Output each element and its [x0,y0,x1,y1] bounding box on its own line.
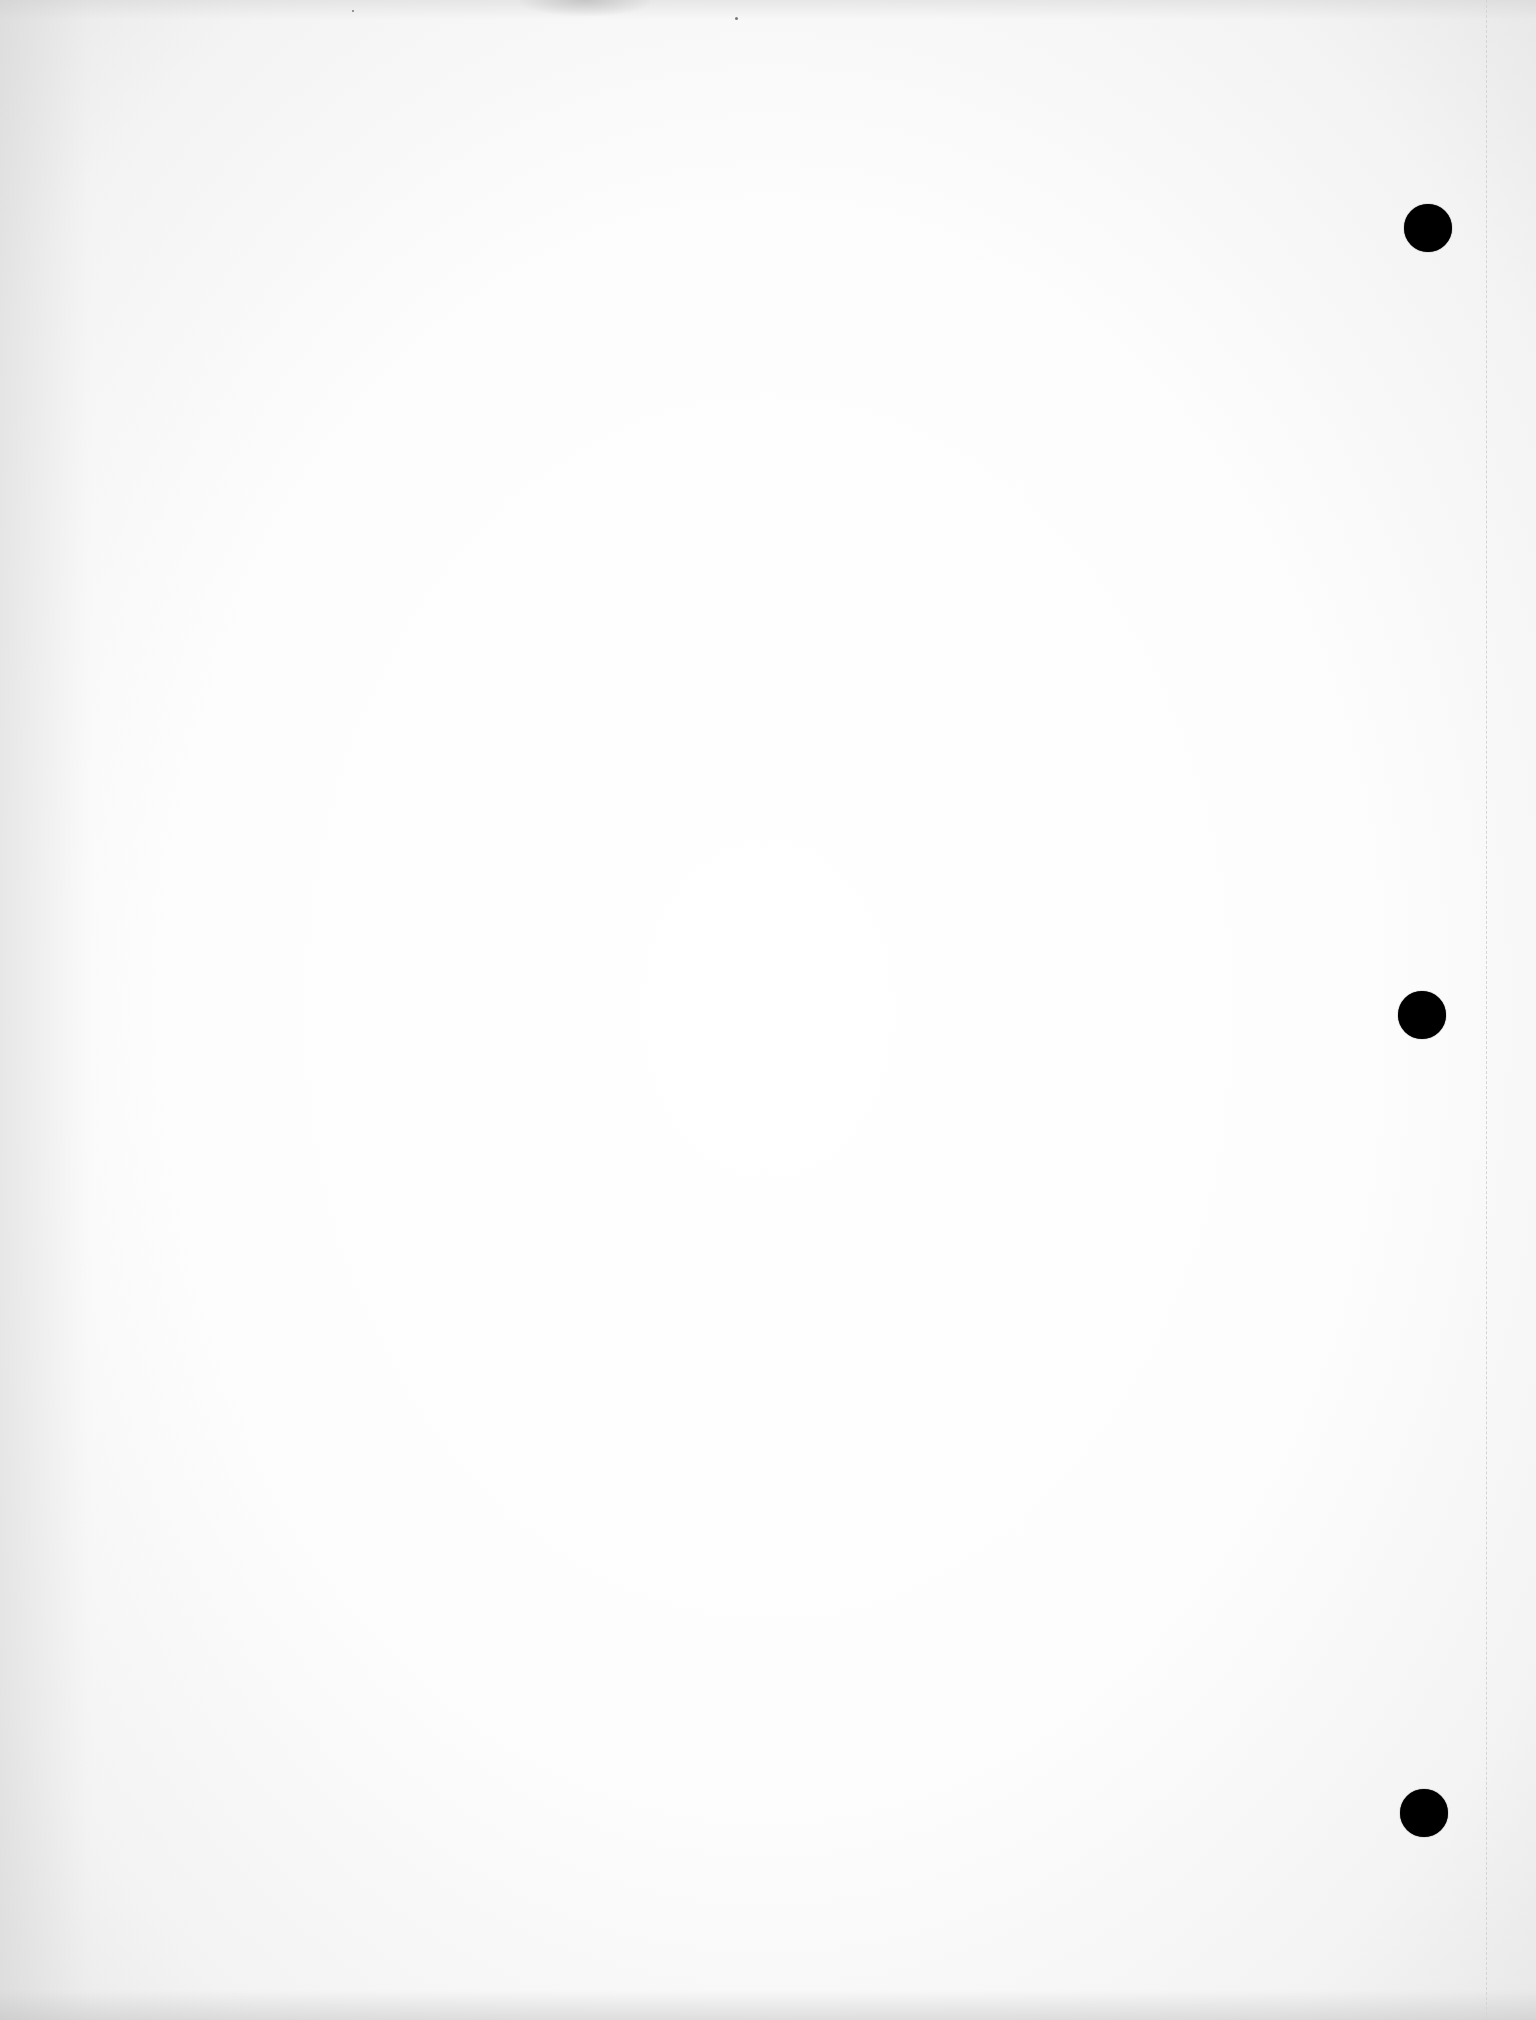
dust-speck [735,17,738,20]
left-edge-shadow [0,0,90,2020]
bottom-edge-shadow [0,1990,1536,2020]
punch-hole-bottom [1400,1789,1448,1837]
dust-speck [352,10,354,12]
punch-hole-middle [1398,991,1446,1039]
punch-hole-top [1404,204,1452,252]
top-smudge [520,0,650,16]
top-edge-shadow [0,0,1536,20]
perforation-line [1486,0,1487,2020]
scanned-blank-page [0,0,1536,2020]
